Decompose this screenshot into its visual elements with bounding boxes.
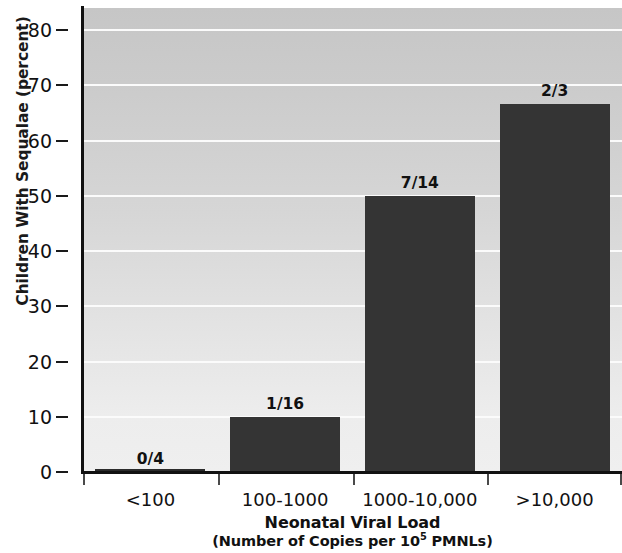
- y-axis-tick-mark: [56, 305, 68, 307]
- y-axis-tick-label: 70: [0, 76, 52, 95]
- bar-value-label: 2/3: [500, 82, 610, 100]
- y-axis-tick-mark: [56, 361, 68, 363]
- x-axis-tick-label: 100-1000: [242, 489, 329, 510]
- bar: [500, 104, 610, 472]
- y-axis-tick-label: 40: [0, 242, 52, 261]
- bar: [230, 417, 340, 472]
- y-axis-tick-label: 10: [0, 407, 52, 426]
- x-axis-tick-label: <100: [126, 489, 175, 510]
- y-axis-tick-label: 60: [0, 131, 52, 150]
- x-axis-line: [81, 471, 622, 474]
- x-axis-tick-mark: [487, 474, 489, 485]
- y-axis-tick-label: 50: [0, 186, 52, 205]
- plot-area: [83, 8, 622, 472]
- bar-chart-figure: Children With Sequalae (percent) 0102030…: [0, 0, 622, 553]
- y-axis-tick-mark: [56, 250, 68, 252]
- bar-value-label: 1/16: [230, 395, 340, 413]
- y-axis-tick-label: 30: [0, 297, 52, 316]
- x-axis-tick-mark: [83, 474, 85, 485]
- gridline: [83, 29, 622, 31]
- bar-value-label: 7/14: [365, 174, 475, 192]
- x-axis-title: Neonatal Viral Load: [83, 513, 622, 532]
- y-axis-tick-mark: [56, 416, 68, 418]
- bar-value-label: 0/4: [95, 450, 205, 468]
- y-axis-tick-group: 01020304050607080: [0, 0, 68, 553]
- bar: [365, 196, 475, 472]
- y-axis-tick-mark: [56, 471, 68, 473]
- x-axis-subtitle-superscript: 5: [420, 531, 427, 542]
- y-axis-tick-mark: [56, 195, 68, 197]
- y-axis-tick-label: 0: [0, 463, 52, 482]
- x-axis-tick-mark: [353, 474, 355, 485]
- x-axis-tick-mark: [218, 474, 220, 485]
- y-axis-line: [81, 6, 84, 474]
- y-axis-tick-label: 80: [0, 21, 52, 40]
- y-axis-tick-mark: [56, 29, 68, 31]
- y-axis-tick-label: 20: [0, 352, 52, 371]
- x-axis-subtitle: (Number of Copies per 105 PMNLs): [83, 533, 622, 549]
- x-axis-tick-label: 1000-10,000: [362, 489, 477, 510]
- y-axis-tick-mark: [56, 84, 68, 86]
- x-axis-tick-label: >10,000: [516, 489, 594, 510]
- y-axis-tick-mark: [56, 140, 68, 142]
